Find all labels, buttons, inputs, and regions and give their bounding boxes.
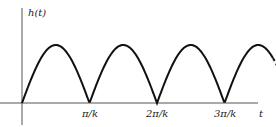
- y-axis-label: h(t): [28, 7, 46, 18]
- tick-label-3: 3π/k: [214, 108, 236, 119]
- x-axis-label: t: [259, 108, 263, 119]
- curve-continuation: [273, 58, 276, 84]
- tick-label-2: 2π/k: [146, 108, 168, 119]
- chart: h(t) π/k 2π/k 3π/k t: [0, 0, 276, 127]
- tick-label-1: π/k: [82, 108, 98, 119]
- curve-h-t: [22, 45, 273, 103]
